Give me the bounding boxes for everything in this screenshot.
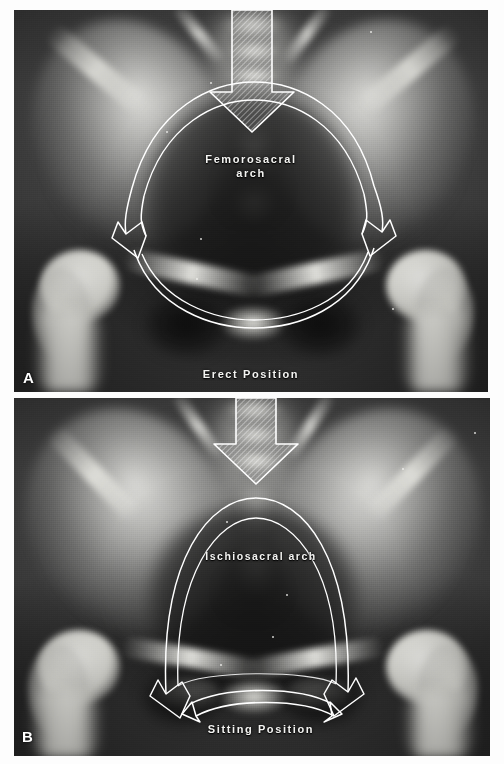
annotation-overlay-a — [14, 10, 488, 392]
annotation-overlay-b — [14, 398, 490, 756]
inferior-arc-b — [178, 674, 336, 686]
radiograph-figure: Femorosacral arch Erect Position A — [0, 0, 504, 764]
load-arrow-a — [210, 10, 294, 132]
arch-arc-inner-b — [178, 518, 337, 686]
panel-b-sitting-radiograph: Ischiosacral arch Sitting Position B — [14, 398, 490, 756]
inferior-arc-inner-a — [142, 252, 368, 320]
panel-letter-a: A — [23, 369, 34, 386]
force-arrow-right-b — [324, 678, 364, 716]
force-arrow-right-a — [362, 186, 396, 256]
panel-letter-b: B — [22, 728, 33, 745]
panel-a-erect-radiograph: Femorosacral arch Erect Position A — [14, 10, 488, 392]
force-arrow-left-a — [112, 188, 146, 258]
arch-arc-outer-b — [166, 498, 349, 694]
load-arrow-b — [214, 398, 298, 484]
inferior-arc-outer-a — [134, 248, 374, 328]
ischial-span-double-arrow-b — [182, 691, 342, 723]
